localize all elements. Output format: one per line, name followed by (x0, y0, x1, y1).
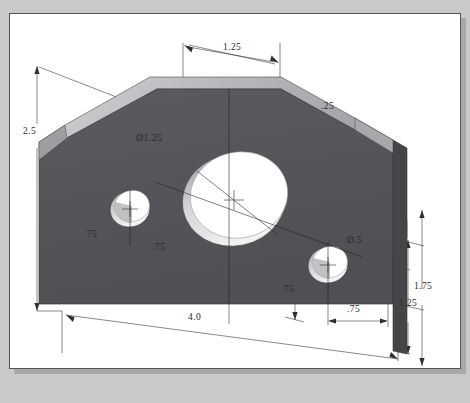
dimension-label-right-hole-y: .75 (281, 285, 294, 295)
dimension-label-length-overall: 4.0 (188, 313, 201, 323)
isometric-part-drawing (10, 14, 460, 368)
clipped-heading-text (0, 0, 470, 3)
dimension-label-right-hole-x: .75 (347, 305, 360, 315)
dimension-label-right-height-inner: 1.25 (399, 299, 417, 309)
dimension-label-left-hole-y: .75 (152, 243, 165, 253)
dimension-label-left-hole-x: .75 (84, 230, 97, 240)
drawing-sheet: 2.5 1.25 .25 Ø1.25 Ø.5 .75 .75 .75 .75 4… (9, 13, 461, 369)
dimension-label-large-hole-diameter: Ø1.25 (136, 133, 163, 143)
dimension-label-small-hole-diameter: Ø.5 (347, 236, 362, 246)
drawing-page: 2.5 1.25 .25 Ø1.25 Ø.5 .75 .75 .75 .75 4… (0, 0, 470, 403)
dimension-label-right-height-outer: 1.75 (414, 282, 432, 292)
dimension-label-top-offset: 1.25 (223, 43, 241, 53)
dimension-label-chamfer: .25 (321, 102, 334, 112)
dimension-label-height-overall: 2.5 (23, 127, 36, 137)
